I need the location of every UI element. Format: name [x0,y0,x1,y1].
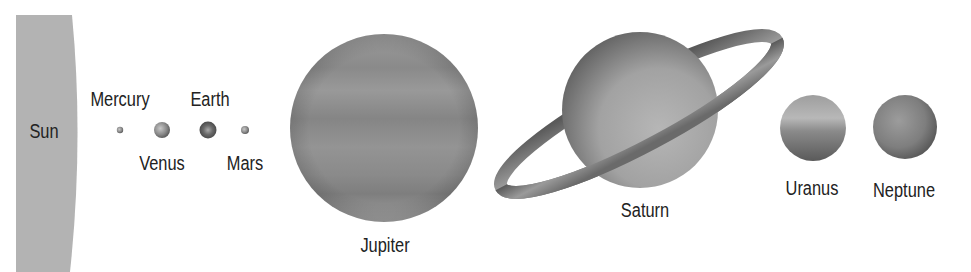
sun-label: Sun [28,121,61,141]
jupiter-label: Jupiter [352,235,418,255]
uranus-disc [780,95,846,161]
uranus-label: Uranus [779,178,845,198]
mars-disc [241,126,249,134]
sun-disc [16,15,78,272]
saturn-disc [562,32,718,188]
earth-label: Earth [185,89,234,109]
mars-label: Mars [220,153,269,173]
mercury-label: Mercury [87,89,153,109]
saturn-label: Saturn [612,200,678,220]
mercury-disc [117,127,123,133]
earth-disc [200,122,217,139]
solar-system-diagram: Sun Mercury Earth Venus Mars Jupiter Sat… [0,0,971,272]
venus-label: Venus [136,153,188,173]
venus-disc [154,122,170,138]
planets-illustration [0,0,971,272]
neptune-disc [873,95,937,159]
jupiter-disc [290,34,478,222]
neptune-label: Neptune [867,180,941,200]
